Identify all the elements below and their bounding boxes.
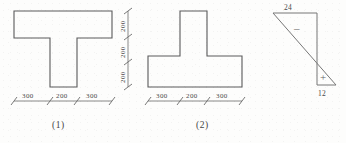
- dim-label-h2: 200: [56, 92, 68, 100]
- dim-label-h3: 300: [86, 92, 98, 100]
- dim-label-v2: 200: [119, 46, 127, 58]
- dim-label-v1: 200: [119, 20, 127, 32]
- figure-2: 300 200 300: [145, 4, 260, 116]
- drawing-page: 300 200 300 200 200 200 (1) 300 200: [0, 0, 346, 143]
- dim-label-h1: 300: [156, 92, 168, 100]
- figure-1-caption: (1): [52, 120, 65, 130]
- shear-value-top: 24: [284, 3, 292, 12]
- dim-label-h3: 300: [216, 92, 228, 100]
- positive-sign-label: +: [320, 71, 326, 83]
- figure-2-caption: (2): [196, 120, 209, 130]
- negative-sign-label: –: [293, 22, 300, 34]
- shear-value-bottom: 12: [318, 89, 326, 98]
- dim-label-v3: 200: [119, 71, 127, 83]
- tee-outline: [14, 11, 112, 87]
- figure-3-shear-diagram: 24 12 – +: [270, 4, 346, 104]
- figure-1: 300 200 300 200 200 200: [8, 4, 158, 116]
- inverted-tee-outline: [148, 11, 242, 87]
- shear-slope-line: [273, 13, 336, 85]
- dim-label-h1: 300: [22, 92, 34, 100]
- dim-label-h2: 200: [186, 92, 198, 100]
